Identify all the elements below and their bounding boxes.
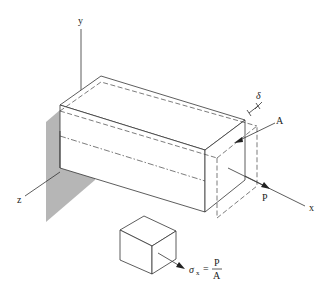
load-label: P bbox=[262, 192, 268, 203]
stress-numerator: P bbox=[214, 257, 220, 268]
y-axis-label: y bbox=[78, 15, 83, 26]
load-arrowhead-icon bbox=[261, 182, 270, 189]
z-axis-label: z bbox=[17, 194, 22, 205]
stress-equals: = bbox=[203, 263, 209, 274]
stress-arrowhead-icon bbox=[176, 262, 185, 269]
delta-label: δ bbox=[256, 90, 261, 101]
stress-subscript: x bbox=[196, 269, 200, 277]
stress-element: σ x = P A bbox=[120, 216, 222, 281]
load-arrow-line bbox=[245, 176, 265, 186]
area-label: A bbox=[276, 115, 284, 126]
delta-tick-1 bbox=[247, 110, 251, 116]
x-axis-label: x bbox=[309, 202, 314, 213]
stress-denominator: A bbox=[213, 270, 221, 281]
stress-symbol: σ bbox=[189, 264, 195, 275]
axial-bar-diagram: y z x P A δ σ x = P A bbox=[0, 0, 332, 296]
